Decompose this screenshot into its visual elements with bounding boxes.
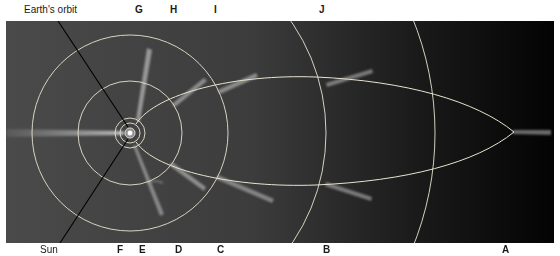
orbit-diagram-panel: [6, 21, 554, 243]
position-label-h: H: [170, 4, 177, 16]
position-label-f: F: [117, 244, 123, 256]
earth-orbit-label: Earth's orbit: [24, 4, 77, 16]
orbit-diagram-svg: [6, 21, 554, 243]
position-label-b: B: [323, 244, 330, 256]
position-label-i: I: [214, 4, 217, 16]
position-label-g: G: [135, 4, 143, 16]
position-label-d: D: [175, 244, 182, 256]
position-label-e: E: [139, 244, 146, 256]
sun-label: Sun: [40, 244, 58, 256]
position-label-a: A: [502, 244, 509, 256]
sun-icon: [128, 131, 132, 135]
position-label-c: C: [217, 244, 224, 256]
position-label-j: J: [319, 4, 325, 16]
